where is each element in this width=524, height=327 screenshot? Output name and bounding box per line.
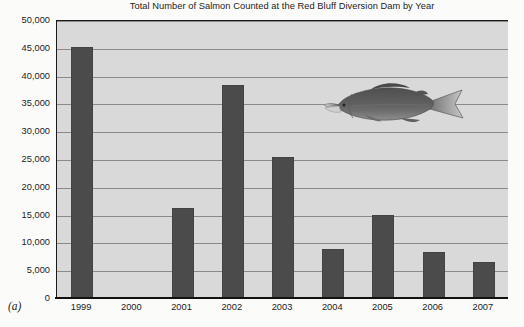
y-axis-tick-label: 5,000 (0, 265, 50, 275)
plot-area (56, 20, 508, 298)
gridline (57, 132, 508, 133)
bar-2002 (222, 85, 244, 299)
panel-label: (a) (8, 300, 21, 312)
y-axis-tick-label: 45,000 (0, 43, 50, 53)
gridline (57, 49, 508, 50)
y-axis-tick-label: 35,000 (0, 98, 50, 108)
y-axis-tick-label: 25,000 (0, 154, 50, 164)
x-axis-line (55, 297, 508, 299)
bar-2003 (272, 157, 294, 299)
bar-2007 (473, 262, 495, 299)
y-axis-tick-label: 10,000 (0, 237, 50, 247)
y-axis-tick-label: 20,000 (0, 182, 50, 192)
y-axis-tick-label: 15,000 (0, 210, 50, 220)
chart-title: Total Number of Salmon Counted at the Re… (56, 1, 508, 11)
x-axis-tick-label: 2007 (453, 302, 513, 312)
figure-panel: Total Number of Salmon Counted at the Re… (0, 0, 524, 327)
bar-2005 (372, 215, 394, 299)
bar-2004 (322, 249, 344, 299)
y-axis-tick-label: 30,000 (0, 126, 50, 136)
y-axis-tick-label: 50,000 (0, 15, 50, 25)
bar-2006 (423, 252, 445, 299)
bar-1999 (71, 47, 93, 299)
gridline (57, 77, 508, 78)
gridline (57, 104, 508, 105)
y-axis-tick-label: 40,000 (0, 71, 50, 81)
gridline (57, 21, 508, 22)
bar-2001 (172, 208, 194, 299)
